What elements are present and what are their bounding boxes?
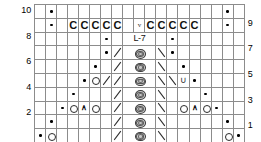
no-stitch-cell: [200, 73, 211, 87]
row-label-left: 6: [18, 55, 34, 68]
knit-cell: [112, 32, 123, 46]
chart-row: [35, 60, 244, 74]
knit-cell: [211, 18, 222, 32]
knit-cell: [90, 5, 101, 19]
stitch-cell: [101, 46, 112, 60]
stitch-cell: [222, 129, 233, 142]
stitch-cell: [167, 46, 178, 60]
no-stitch-cell: [57, 46, 68, 60]
stitch-cell: [222, 18, 233, 32]
no-stitch-cell: [35, 18, 46, 32]
knit-cell: [101, 5, 112, 19]
purl-dot-icon: [167, 33, 177, 46]
row-label-left: [18, 94, 34, 107]
knit-cell: [167, 87, 178, 101]
knit-cell: [189, 129, 200, 142]
bobble-icon: [124, 76, 154, 85]
no-stitch-cell: [79, 60, 90, 74]
left-decrease-icon: [112, 102, 122, 115]
stitch-cell: [112, 115, 123, 129]
knitting-chart-page: 10 8 6 4 2 CCCCCvCCCCCL-7∪∧∧ 9 7 5 3 1: [0, 0, 261, 142]
knit-below-u-icon: ∪: [178, 74, 188, 87]
cable-c-icon: C: [145, 19, 155, 32]
bobble-cell: [123, 129, 156, 142]
knit-cell: [178, 115, 189, 129]
knit-cell: [156, 32, 167, 46]
row-label-left: 4: [18, 81, 34, 94]
purl-dot-icon: [79, 74, 89, 87]
knit-cell: [79, 5, 90, 19]
stitch-cell: C: [178, 18, 189, 32]
knit-cell: [200, 129, 211, 142]
purl-dot-icon: [167, 46, 177, 59]
stitch-cell: v: [134, 18, 145, 32]
knit-cell: [189, 5, 200, 19]
stitch-cell: [35, 129, 46, 142]
purl-dot-icon: [223, 19, 233, 32]
purl-dot-icon: [223, 5, 233, 18]
row-numbers-right: 9 7 5 3 1: [245, 4, 261, 142]
row-label-left: 10: [18, 4, 34, 17]
no-stitch-cell: [57, 32, 68, 46]
knit-cell: [112, 5, 123, 19]
stitch-cell: C: [90, 18, 101, 32]
row-label-right: [245, 55, 261, 68]
knit-cell: [178, 129, 189, 142]
no-stitch-cell: [222, 73, 233, 87]
knit-cell: [101, 87, 112, 101]
stitch-cell: [222, 5, 233, 19]
yarn-over-icon: [90, 74, 100, 87]
stitch-cell: [167, 32, 178, 46]
cable-c-icon: C: [167, 19, 177, 32]
no-stitch-cell: [200, 46, 211, 60]
bobble-icon: [124, 131, 154, 140]
stitch-cell: ∪: [178, 73, 189, 87]
stitch-cell: [112, 73, 123, 87]
no-stitch-cell: [123, 18, 134, 32]
stitch-cell: C: [145, 18, 156, 32]
no-stitch-cell: [222, 60, 233, 74]
no-stitch-cell: [211, 32, 222, 46]
yarn-over-icon: [90, 102, 100, 115]
cable-c-icon: C: [101, 19, 111, 32]
purl-dot-icon: [223, 115, 233, 128]
row-label-left: 8: [18, 30, 34, 43]
knit-cell: [68, 129, 79, 142]
left-decrease-icon: [112, 46, 122, 59]
purl-dot-icon: [201, 88, 211, 101]
no-stitch-cell: [233, 115, 244, 129]
right-decrease-icon: [156, 129, 166, 142]
knit-cell: [90, 115, 101, 129]
row-label-right: 3: [245, 94, 261, 107]
stitch-cell: [178, 60, 189, 74]
row-label-right: 1: [245, 119, 261, 132]
no-stitch-cell: [178, 46, 189, 60]
knit-cell: [145, 5, 156, 19]
stitch-cell: [112, 46, 123, 60]
stitch-cell: C: [167, 18, 178, 32]
stitch-cell: [233, 129, 244, 142]
knit-cell: [200, 5, 211, 19]
knit-cell: [101, 115, 112, 129]
purl-dot-icon: [178, 60, 188, 73]
no-stitch-cell: [200, 60, 211, 74]
stitch-cell: C: [68, 18, 79, 32]
right-decrease-icon: [156, 88, 166, 101]
bobble-icon: [124, 90, 154, 99]
stitch-cell: [156, 46, 167, 60]
row-label-right: [245, 30, 261, 43]
knit-cell: [200, 115, 211, 129]
chart-row: [35, 115, 244, 129]
no-stitch-cell: [222, 101, 233, 115]
right-decrease-icon: [167, 74, 177, 87]
no-stitch-cell: [35, 46, 46, 60]
no-stitch-cell: [46, 32, 57, 46]
cable-c-icon: C: [90, 19, 100, 32]
bobble-icon: [124, 117, 154, 126]
no-stitch-cell: [79, 46, 90, 60]
stitch-cell: [68, 101, 79, 115]
stitch-cell: [79, 73, 90, 87]
no-stitch-cell: [57, 60, 68, 74]
row-numbers-left: 10 8 6 4 2: [18, 4, 34, 142]
row-label-left: 2: [18, 106, 34, 119]
